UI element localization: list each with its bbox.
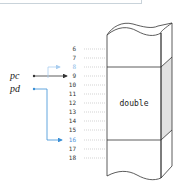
address-label: 9 (72, 72, 76, 79)
address-label: 7 (72, 54, 76, 61)
address-label: 17 (69, 145, 77, 152)
address-label: 10 (69, 81, 77, 88)
block-top-divider (107, 57, 172, 67)
pointer-label-pc: pc (9, 70, 20, 81)
address-label: 11 (69, 90, 77, 97)
pointer-pc: pc (9, 70, 67, 81)
address-label: 8 (72, 63, 76, 70)
pointer-pd: pd (9, 83, 62, 140)
address-label: 13 (69, 108, 77, 115)
address-label: 14 (69, 117, 77, 124)
pointer-label-pd: pd (9, 83, 21, 94)
address-label: 12 (69, 99, 77, 106)
address-label: 15 (69, 126, 77, 133)
memory-column: double (107, 23, 172, 180)
dotted-leaders (84, 49, 106, 158)
address-label: 16 (69, 136, 77, 143)
memory-diagram: double 6 7 8 9 10 11 12 13 14 15 16 17 1… (0, 0, 187, 185)
arrow-icon (34, 89, 62, 140)
address-label: 18 (69, 154, 77, 161)
address-label: 6 (72, 45, 76, 52)
side-shade (161, 57, 172, 140)
block-type-label: double (120, 99, 149, 108)
address-list: 6 7 8 9 10 11 12 13 14 15 16 17 18 (69, 45, 106, 161)
